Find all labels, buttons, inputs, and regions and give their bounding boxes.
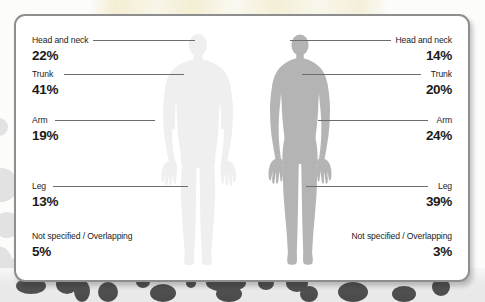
label-trunk-left: Trunk 41% [32,70,58,96]
infographic-card: Head and neck 22% Trunk 41% Arm 19% Leg … [14,14,470,282]
leader-line-leg-left [53,186,188,187]
leader-line-trunk-right [302,74,421,75]
label-head-neck-left: Head and neck 22% [32,36,89,62]
label-value: 20% [426,83,452,97]
leader-line-arm-right [318,120,428,121]
label-value: 39% [426,195,452,209]
label-not-specified-right: Not specified / Overlapping 3% [352,232,452,258]
label-head-neck-right: Head and neck 14% [395,36,452,62]
label-text: Head and neck [32,36,89,45]
leader-line-arm-left [55,120,155,121]
label-value: 19% [32,129,58,143]
background-blob [0,118,8,136]
label-value: 22% [32,49,89,63]
label-not-specified-left: Not specified / Overlapping 5% [32,232,132,258]
male-figure [150,32,246,270]
label-value: 5% [32,245,132,259]
label-text: Trunk [426,70,452,79]
label-value: 41% [32,83,58,97]
label-arm-left: Arm 19% [32,116,58,142]
label-trunk-right: Trunk 20% [426,70,452,96]
leader-line-head-neck-left [93,40,195,41]
label-text: Not specified / Overlapping [352,232,452,241]
leader-line-leg-right [306,186,428,187]
label-value: 24% [426,129,452,143]
label-text: Arm [426,116,452,125]
female-figure [252,32,348,270]
label-leg-right: Leg 39% [426,182,452,208]
label-value: 3% [352,245,452,259]
label-text: Trunk [32,70,58,79]
label-value: 13% [32,195,58,209]
label-text: Leg [426,182,452,191]
label-arm-right: Arm 24% [426,116,452,142]
label-text: Head and neck [395,36,452,45]
label-text: Not specified / Overlapping [32,232,132,241]
leader-line-trunk-left [64,74,184,75]
label-text: Leg [32,182,58,191]
label-leg-left: Leg 13% [32,182,58,208]
label-text: Arm [32,116,58,125]
leader-line-head-neck-right [290,40,391,41]
label-value: 14% [395,49,452,63]
